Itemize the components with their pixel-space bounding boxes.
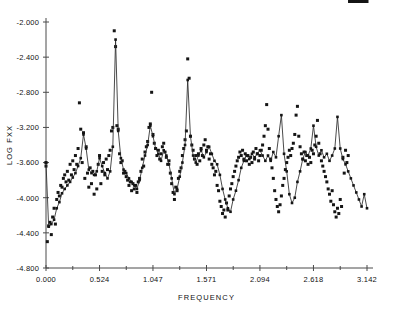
scatter-data-point [263, 135, 266, 138]
scatter-data-point [258, 154, 261, 157]
line-data-point [122, 168, 125, 171]
line-data-point [85, 147, 88, 150]
scatter-data-point [331, 189, 334, 192]
scatter-data-point [229, 187, 232, 190]
line-data-point [248, 158, 251, 161]
scatter-data-point [102, 161, 105, 164]
line-data-point [109, 170, 112, 173]
line-data-point [178, 175, 181, 178]
scatter-data-point [270, 166, 273, 169]
scatter-data-point [265, 103, 268, 106]
line-data-point [344, 163, 347, 166]
scatter-data-point [234, 165, 237, 168]
scatter-data-point [307, 163, 310, 166]
scatter-data-point [62, 177, 65, 180]
line-data-point [312, 124, 315, 127]
line-data-point [299, 170, 302, 173]
line-data-point [133, 184, 136, 187]
scatter-data-point [110, 129, 113, 132]
line-data-point [112, 145, 115, 148]
line-data-point [192, 154, 195, 157]
line-data-point [213, 160, 216, 163]
chart-canvas: -2.000-2.400-2.800-3.200-3.600-4.000-4.4… [0, 0, 394, 318]
scatter-data-point [79, 128, 82, 131]
scatter-data-point [320, 159, 323, 162]
scatter-data-point [339, 198, 342, 201]
line-data-point [203, 156, 206, 159]
scatter-data-point [71, 159, 74, 162]
scatter-data-point [267, 128, 270, 131]
scatter-data-point [202, 144, 205, 147]
line-data-point [315, 145, 318, 148]
line-data-point [358, 198, 361, 201]
scatter-data-point [254, 147, 257, 150]
line-data-point [71, 176, 74, 179]
line-data-point [288, 193, 291, 196]
line-data-point [240, 167, 243, 170]
line-data-point [304, 151, 307, 154]
x-tick-label: 0.524 [90, 275, 110, 284]
line-data-point [272, 151, 275, 154]
line-data-point [326, 152, 329, 155]
scatter-data-point [316, 119, 319, 122]
scatter-data-point [213, 173, 216, 176]
scatter-data-point [283, 177, 286, 180]
line-data-point [186, 79, 189, 82]
scatter-data-point [186, 57, 189, 60]
scatter-data-point [343, 172, 346, 175]
scatter-data-point [295, 114, 298, 117]
line-data-point [136, 188, 139, 191]
scatter-data-point [99, 182, 102, 185]
line-data-point [50, 223, 53, 226]
scatter-data-point [81, 161, 84, 164]
line-data-point [117, 130, 120, 133]
scatter-data-point [292, 142, 295, 145]
line-data-point [310, 147, 313, 150]
scatter-data-point [107, 154, 110, 157]
line-data-point [82, 133, 85, 136]
x-tick-label: 0.000 [36, 275, 56, 284]
scatter-data-point [93, 193, 96, 196]
scatter-data-point [58, 194, 61, 197]
line-data-point [69, 181, 72, 184]
scatter-data-point [245, 159, 248, 162]
line-data-point [331, 154, 334, 157]
line-data-point [149, 124, 152, 127]
line-data-point [267, 154, 270, 157]
y-axis-ticks: -2.000-2.400-2.800-3.200-3.600-4.000-4.4… [17, 18, 49, 273]
scatter-data-point [73, 168, 76, 171]
scatter-data-point [105, 158, 108, 161]
scatter-data-point [95, 187, 98, 190]
line-data-point [261, 154, 264, 157]
scatter-data-point [321, 165, 324, 168]
scatter-data-point [217, 189, 220, 192]
line-data-point [162, 149, 165, 152]
line-data-point [189, 135, 192, 138]
scatter-data-point [344, 149, 347, 152]
scatter-data-point [133, 187, 136, 190]
y-tick-label: -2.000 [17, 18, 39, 27]
scatter-data-point [232, 175, 235, 178]
scatter-data-point [279, 203, 282, 206]
line-data-point [181, 161, 184, 164]
line-data-point [120, 157, 123, 160]
line-data-point [63, 188, 66, 191]
line-data-point [301, 158, 304, 161]
line-data-point [227, 207, 230, 210]
line-data-point [58, 201, 61, 204]
scatter-data-point [332, 203, 335, 206]
scatter-data-point [347, 154, 350, 157]
line-data-point [243, 160, 246, 163]
line-data-point [245, 154, 248, 157]
scatter-data-point [63, 173, 66, 176]
line-data-point [106, 177, 109, 180]
line-data-point [200, 149, 203, 152]
scatter-data-point [98, 154, 101, 157]
scatter-data-point [293, 133, 296, 136]
line-data-point [221, 188, 224, 191]
y-tick-label: -3.200 [17, 123, 39, 132]
scatter-data-point [340, 205, 343, 208]
scatter-data-point [161, 145, 164, 148]
scatter-data-point [208, 158, 211, 161]
line-data-point [168, 163, 171, 166]
